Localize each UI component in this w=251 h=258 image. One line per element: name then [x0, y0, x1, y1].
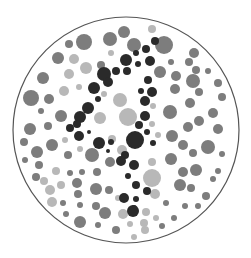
figure-dot: [138, 88, 144, 94]
background-dot: [165, 153, 177, 165]
background-dot: [57, 181, 65, 189]
figure-dot: [135, 121, 143, 129]
background-dot: [65, 40, 73, 48]
background-dot: [90, 183, 102, 195]
background-dot: [119, 108, 137, 126]
background-dot: [105, 157, 115, 167]
background-dot: [69, 54, 79, 64]
background-dot: [166, 130, 178, 142]
figure-dot: [87, 130, 91, 134]
background-dot: [168, 59, 174, 65]
figure-dot: [151, 37, 159, 45]
background-dot: [171, 215, 177, 221]
figure-dot: [103, 77, 113, 87]
background-dot: [131, 234, 137, 240]
figure-dot: [88, 82, 100, 94]
background-dot: [37, 72, 49, 84]
background-dot: [118, 209, 128, 219]
background-dot: [52, 52, 64, 64]
background-dot: [95, 222, 101, 228]
background-dot: [112, 226, 120, 234]
background-dot: [148, 25, 156, 33]
background-dot: [214, 79, 222, 87]
background-dot: [67, 170, 73, 176]
background-dot: [20, 138, 28, 146]
background-dot: [55, 110, 67, 122]
background-dot: [64, 69, 74, 79]
background-dot: [140, 219, 148, 227]
background-dot: [205, 68, 211, 74]
background-dot: [74, 190, 82, 198]
background-dot: [189, 149, 197, 157]
background-dot: [186, 74, 200, 88]
background-dot: [32, 173, 40, 181]
background-dot: [163, 200, 169, 206]
background-dot: [31, 146, 43, 158]
background-dot: [127, 38, 141, 52]
background-dot: [108, 50, 114, 56]
figure-dot: [133, 50, 139, 56]
background-dot: [118, 26, 130, 38]
background-dot: [178, 140, 188, 150]
background-dot: [22, 157, 28, 163]
background-dot: [171, 71, 181, 81]
background-dot: [150, 189, 160, 199]
background-dot: [77, 146, 83, 152]
background-dot: [92, 202, 100, 210]
background-dot: [62, 137, 68, 143]
figure-dot: [142, 45, 150, 53]
background-dot: [79, 169, 85, 175]
background-dot: [155, 132, 161, 138]
background-dot: [185, 58, 193, 66]
background-dot: [149, 121, 155, 127]
background-dot: [99, 207, 111, 219]
background-dot: [153, 215, 159, 221]
background-dot: [103, 32, 117, 46]
background-dot: [142, 208, 150, 216]
background-dot: [76, 84, 82, 90]
background-dot: [194, 116, 204, 126]
background-dot: [101, 91, 107, 97]
background-dot: [192, 66, 200, 74]
background-dot: [210, 176, 216, 182]
figure-dot: [82, 102, 94, 114]
background-dot: [93, 168, 101, 176]
background-dot: [45, 185, 55, 195]
background-dot: [190, 164, 202, 176]
ishihara-plate: [0, 0, 251, 258]
background-dot: [150, 103, 156, 109]
background-dot: [154, 66, 166, 78]
background-dot: [127, 221, 133, 227]
figure-dot: [116, 156, 126, 166]
background-dot: [178, 167, 188, 177]
figure-dot: [150, 140, 156, 146]
background-dot: [201, 140, 215, 154]
background-dot: [105, 186, 113, 194]
figure-dot: [132, 181, 140, 189]
background-dot: [76, 34, 92, 50]
background-dot: [143, 169, 161, 187]
figure-dot: [143, 187, 151, 195]
background-dot: [23, 90, 39, 106]
background-dot: [44, 122, 52, 130]
background-dot: [94, 112, 106, 124]
background-dot: [63, 211, 69, 217]
background-dot: [85, 148, 99, 162]
background-dot: [52, 167, 60, 175]
background-dot: [40, 177, 48, 185]
background-dot: [72, 178, 82, 188]
figure-dot: [73, 120, 81, 128]
background-dot: [183, 122, 193, 132]
figure-dot: [93, 137, 105, 149]
background-dot: [195, 203, 201, 209]
figure-dot: [140, 96, 150, 106]
background-dot: [35, 161, 43, 169]
background-dot: [170, 84, 180, 94]
background-dot: [80, 62, 92, 74]
background-dot: [64, 151, 72, 159]
background-dot: [213, 124, 223, 134]
figure-dot: [106, 149, 110, 153]
figure-dot: [120, 54, 132, 66]
background-dot: [77, 202, 83, 208]
background-dot: [185, 98, 195, 108]
